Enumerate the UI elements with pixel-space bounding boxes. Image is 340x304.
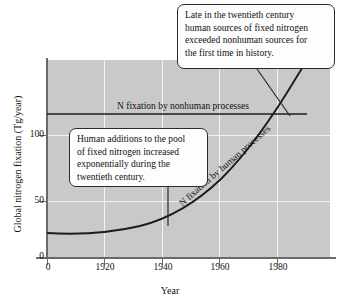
y-axis-line [46, 58, 48, 259]
x-tick-label-1960: 1960 [211, 262, 230, 272]
callout-crossover-line3: exceeded nonhuman sources for [185, 34, 327, 47]
y-tick-label-100: 100 [30, 129, 44, 139]
callout-crossover: Late in the twentieth century human sour… [177, 4, 335, 69]
gridline-vertical [277, 60, 278, 257]
callout-crossover-line4: the first time in history. [185, 47, 327, 60]
callout-growth-line4: twentieth century. [77, 171, 200, 184]
x-axis-title: Year [0, 285, 340, 296]
series-label-nonhuman: N fixation by nonhuman processes [117, 101, 249, 111]
callout-crossover-line2: human sources of fixed nitrogen [185, 22, 327, 35]
callout-exponential-growth: Human additions to the pool of fixed nit… [69, 128, 208, 187]
x-tick-label-1980: 1980 [269, 262, 288, 272]
x-tick-label-1920: 1920 [96, 262, 115, 272]
x-tick-label-1940: 1940 [154, 262, 173, 272]
y-tick-label-50: 50 [35, 195, 45, 205]
callout-growth-line2: of fixed nitrogen increased [77, 146, 200, 159]
y-axis-title-wrapper: Global nitrogen fixation (Tg/year) [7, 64, 25, 264]
x-tick-label-0: 0 [46, 262, 51, 272]
callout-growth-line3: exponentially during the [77, 158, 200, 171]
y-axis-title: Global nitrogen fixation (Tg/year) [12, 96, 23, 233]
callout-crossover-line1: Late in the twentieth century [185, 9, 327, 22]
y-tick-label-0: 0 [39, 251, 44, 261]
x-axis-line [36, 257, 336, 259]
callout-growth-line1: Human additions to the pool [77, 133, 200, 146]
nitrogen-fixation-chart: 0 50 100 0 1920 1940 1960 1980 Year Glob… [0, 0, 340, 304]
